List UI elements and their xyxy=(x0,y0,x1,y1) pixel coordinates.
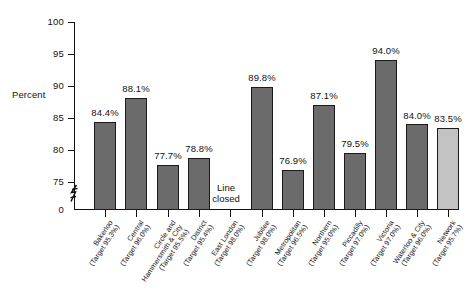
bar-value-victoria: 94.0% xyxy=(363,46,409,56)
bar-value-northern: 87.1% xyxy=(301,91,347,101)
x-tick-9 xyxy=(386,210,387,217)
bar-central xyxy=(125,98,147,210)
y-tick-mark xyxy=(68,182,74,183)
x-tick-1 xyxy=(136,210,137,217)
x-tick-6 xyxy=(293,210,294,217)
bar-value-network: 83.5% xyxy=(425,114,471,124)
bar-value-metropolitan: 76.9% xyxy=(270,156,316,166)
y-axis-line xyxy=(74,22,75,210)
y-tick-label: 100 xyxy=(38,17,64,27)
y-tick-label: 90 xyxy=(38,81,64,91)
x-tick-2 xyxy=(168,210,169,217)
bar-chart: Percent 100 95 90 85 80 75 0 xyxy=(0,0,471,294)
x-tick-0 xyxy=(105,210,106,217)
y-tick-label: 85 xyxy=(38,113,64,123)
bar-value-piccadilly: 79.5% xyxy=(332,139,378,149)
y-tick-mark xyxy=(68,86,74,87)
bar-value-jubilee: 89.8% xyxy=(239,73,285,83)
bar-circle-hammersmith-city xyxy=(157,165,179,210)
y-tick-label: 0 xyxy=(38,205,64,215)
axis-break-icon xyxy=(67,184,83,204)
bar-victoria xyxy=(375,60,397,210)
y-tick-mark xyxy=(68,118,74,119)
bar-northern xyxy=(313,105,335,210)
bar-value-district: 78.8% xyxy=(176,144,222,154)
bar-bakerloo xyxy=(94,122,116,210)
y-tick-mark xyxy=(68,54,74,55)
y-tick-mark xyxy=(68,150,74,151)
y-tick-label: 80 xyxy=(38,145,64,155)
x-tick-7 xyxy=(324,210,325,217)
y-tick-label: 75 xyxy=(38,177,64,187)
y-tick-label: 95 xyxy=(38,49,64,59)
bar-waterloo-city xyxy=(406,124,428,210)
bar-piccadilly xyxy=(344,153,366,210)
x-tick-3 xyxy=(199,210,200,217)
x-tick-5 xyxy=(262,210,263,217)
annotation-line-2: closed xyxy=(212,193,239,204)
bar-metropolitan xyxy=(282,170,304,210)
bar-value-bakerloo: 84.4% xyxy=(82,108,128,118)
y-tick-mark xyxy=(68,22,74,23)
plot-area: 100 95 90 85 80 75 0 xyxy=(0,0,471,294)
annotation-line-1: Line xyxy=(217,182,235,193)
x-tick-10 xyxy=(417,210,418,217)
annotation-line-closed: Line closed xyxy=(198,182,254,204)
bar-value-central: 88.1% xyxy=(113,84,159,94)
bar-network xyxy=(437,128,459,210)
x-tick-8 xyxy=(355,210,356,217)
x-tick-4 xyxy=(230,210,231,217)
x-tick-11 xyxy=(448,210,449,217)
bar-jubilee xyxy=(251,87,273,210)
